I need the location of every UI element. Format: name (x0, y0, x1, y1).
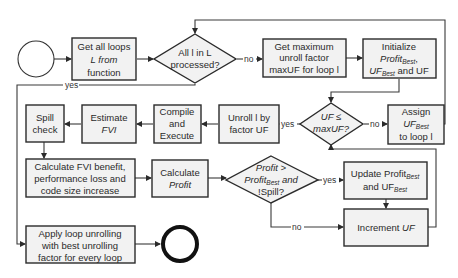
svg-text:performance loss and: performance loss and (34, 173, 125, 184)
node-compile-execute: Compile and Execute (154, 105, 201, 143)
svg-text:maxUF?: maxUF? (313, 123, 350, 134)
svg-text:factor UF: factor UF (229, 124, 268, 135)
start-node (18, 41, 54, 77)
edge-label-all-yes: yes (65, 80, 78, 90)
svg-text:FVI: FVI (102, 124, 117, 135)
node-increment-uf: Increment UF (344, 209, 428, 246)
svg-text:UFBest and UF: UFBest and UF (369, 65, 429, 77)
svg-text:Apply loop unrolling: Apply loop unrolling (39, 228, 122, 239)
svg-text:factor for every loop: factor for every loop (38, 252, 122, 263)
decision-profit-check: Profit > ProfitBest and !Spill? (226, 156, 318, 203)
svg-text:Initialize: Initialize (382, 41, 416, 52)
svg-text:Unroll l by: Unroll l by (228, 112, 270, 123)
svg-text:processed?: processed? (170, 59, 219, 70)
svg-text:maxUF for loop l: maxUF for loop l (269, 64, 339, 75)
svg-text:Spill: Spill (36, 112, 54, 123)
node-get-all-loops: Get all loops L from function (72, 38, 136, 80)
svg-text:code size increase: code size increase (41, 185, 120, 196)
node-assign-uf-best: Assign UFBest to loop l (388, 105, 444, 144)
end-node (163, 227, 197, 261)
svg-text:Profit >: Profit > (256, 162, 287, 173)
svg-text:Calculate FVI benefit,: Calculate FVI benefit, (35, 161, 126, 172)
flowchart-canvas: yes no yes no yes no Get all loops L fro… (0, 0, 458, 278)
svg-text:with best unrolling: with best unrolling (41, 240, 118, 251)
svg-text:to loop l: to loop l (399, 131, 432, 142)
svg-text:!Spill?: !Spill? (258, 186, 284, 197)
svg-text:Execute: Execute (160, 130, 194, 141)
edge-label-all-no: no (244, 54, 254, 64)
node-apply-unrolling: Apply loop unrolling with best unrolling… (26, 226, 135, 263)
edge-label-profit-no: no (292, 222, 302, 232)
svg-text:Estimate: Estimate (91, 112, 128, 123)
svg-text:unroll factor: unroll factor (279, 52, 329, 63)
node-initialize: Initialize ProfitBest, UFBest and UF (363, 39, 436, 78)
svg-text:function: function (87, 67, 120, 78)
node-calculate-fvi-benefit: Calculate FVI benefit, performance loss … (26, 159, 135, 197)
svg-text:and: and (169, 118, 185, 129)
svg-text:Get maximum: Get maximum (274, 41, 333, 52)
node-text: L from (91, 54, 118, 65)
svg-text:Compile: Compile (160, 106, 195, 117)
edge-label-uf-yes: yes (281, 119, 294, 129)
svg-text:UF ≤: UF ≤ (321, 111, 341, 122)
node-spill-check: Spill check (26, 105, 64, 142)
decision-all-processed: All l in L processed? (154, 34, 236, 83)
node-get-max-unroll-factor: Get maximum unroll factor maxUF for loop… (263, 39, 346, 77)
node-estimate-fvi: Estimate FVI (82, 105, 136, 143)
edge-label-uf-no: no (370, 119, 380, 129)
svg-text:check: check (33, 124, 58, 135)
svg-text:Assign: Assign (402, 106, 431, 117)
node-update-best: Update ProfitBest and UFBest (344, 162, 427, 199)
svg-text:Calculate: Calculate (160, 167, 200, 178)
svg-text:Profit: Profit (169, 179, 192, 190)
edge-label-profit-yes: yes (323, 175, 336, 185)
node-unroll: Unroll l by factor UF (219, 105, 279, 143)
svg-text:All l in L: All l in L (178, 47, 211, 58)
svg-text:Increment UF: Increment UF (357, 222, 416, 233)
svg-text:Get all loops: Get all loops (78, 41, 131, 52)
decision-uf-le-maxuf: UF ≤ maxUF? (300, 103, 363, 145)
node-calculate-profit: Calculate Profit (152, 160, 208, 197)
